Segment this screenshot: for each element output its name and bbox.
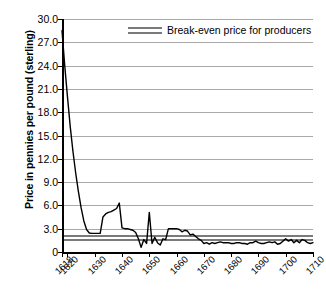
x-tick-mark xyxy=(204,252,205,257)
y-tick-label: 0 xyxy=(52,246,58,258)
x-tick-label: 1680 xyxy=(222,254,245,277)
plot-area: 30.027.024.021.018.015.012.09.06.03.00 xyxy=(62,19,313,252)
y-tick-label: 27.0 xyxy=(38,36,58,48)
y-tick-label: 18.0 xyxy=(38,106,58,118)
y-tick-label: 12.0 xyxy=(38,153,58,165)
x-tick-label: 1650 xyxy=(140,254,163,277)
x-tick-mark xyxy=(95,252,96,257)
price-series-line xyxy=(62,19,313,252)
y-tick-label: 15.0 xyxy=(38,130,58,142)
x-tick-label: 1660 xyxy=(167,254,190,277)
y-axis-line xyxy=(62,19,64,253)
x-tick-mark xyxy=(286,252,287,257)
y-tick-label: 21.0 xyxy=(38,83,58,95)
x-tick-label: 1640 xyxy=(112,254,135,277)
x-tick-label: 1630 xyxy=(85,254,108,277)
x-tick-label: 1670 xyxy=(194,254,217,277)
y-tick-label: 30.0 xyxy=(38,13,58,25)
x-tick-label: 1690 xyxy=(249,254,272,277)
y-tick-label: 6.0 xyxy=(43,199,58,211)
x-tick-label: 1620 xyxy=(58,254,81,277)
y-tick-label: 3.0 xyxy=(43,223,58,235)
x-tick-label: 1700 xyxy=(276,254,299,277)
y-tick-label: 9.0 xyxy=(43,176,58,188)
x-tick-mark xyxy=(177,252,178,257)
x-tick-label: 1710 xyxy=(303,254,326,277)
y-axis-title: Price in pennies per pound (sterling) xyxy=(23,39,35,209)
y-tick-label: 24.0 xyxy=(38,60,58,72)
